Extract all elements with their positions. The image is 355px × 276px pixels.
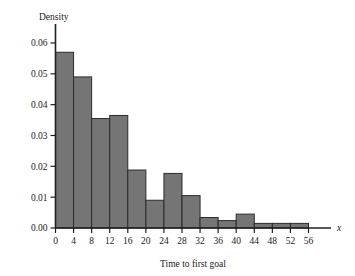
histogram-bar	[146, 200, 164, 228]
x-tick-label: 40	[231, 236, 241, 246]
histogram-bar	[236, 214, 254, 228]
histogram-bar	[56, 52, 74, 228]
x-tick-label: 16	[123, 236, 133, 246]
histogram-bar	[182, 196, 200, 228]
y-tick-label: 0.05	[31, 69, 48, 79]
x-axis-title: Time to first goal	[160, 259, 226, 269]
y-tick-label: 0.01	[31, 193, 48, 203]
histogram-bar	[164, 173, 182, 228]
histogram-bar	[200, 218, 218, 228]
histogram-bar	[218, 221, 236, 228]
histogram-bar	[110, 115, 128, 228]
x-tick-label: 44	[250, 236, 260, 246]
x-tick-label: 32	[195, 236, 205, 246]
x-tick-label: 52	[286, 236, 296, 246]
x-tick-label: 28	[177, 236, 187, 246]
y-tick-label: 0.00	[31, 223, 48, 233]
x-tick-label: 20	[141, 236, 151, 246]
x-tick-label: 36	[213, 236, 223, 246]
histogram-bar	[74, 77, 92, 228]
x-tick-label: 12	[105, 236, 115, 246]
plot-background	[0, 0, 355, 276]
y-axis-title: Density	[39, 12, 69, 22]
y-tick-label: 0.02	[31, 162, 48, 172]
y-tick-label: 0.04	[31, 100, 48, 110]
y-tick-label: 0.06	[31, 38, 48, 48]
y-tick-label: 0.03	[31, 131, 48, 141]
x-tick-label: 0	[53, 236, 58, 246]
x-tick-label: 24	[159, 236, 169, 246]
x-tick-label: 48	[268, 236, 278, 246]
x-tick-label: 56	[304, 236, 314, 246]
chart-canvas: 0.000.010.020.030.040.050.06 04812162024…	[0, 0, 355, 276]
x-tick-label: 8	[89, 236, 94, 246]
histogram-bar	[92, 119, 110, 228]
histogram-chart: 0.000.010.020.030.040.050.06 04812162024…	[0, 0, 355, 276]
x-tick-label: 4	[71, 236, 76, 246]
histogram-bar	[128, 170, 146, 228]
x-axis-variable-label: x	[336, 223, 342, 233]
